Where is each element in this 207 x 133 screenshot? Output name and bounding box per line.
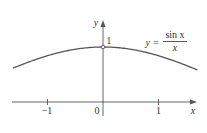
x-tick-label-1: 1 [156,105,161,116]
legend-numerator: sin x [165,29,184,40]
x-tick-label-0: 0 [95,105,100,116]
y-axis-label: y [93,17,99,28]
legend-lhs: y = [145,37,160,48]
legend-denominator: x [172,42,178,53]
legend-equation: y = sin x x [145,29,188,53]
x-tick-label-neg1: −1 [42,105,53,116]
y-axis-arrow-icon [101,20,106,27]
chart: −1 0 1 x y 1 y = sin x x [0,0,207,133]
x-axis-label: x [190,105,196,116]
hole-marker [101,45,105,49]
x-axis-arrow-icon [190,100,197,105]
y-tick-label-1: 1 [107,36,112,46]
sinc-curve [13,47,197,70]
